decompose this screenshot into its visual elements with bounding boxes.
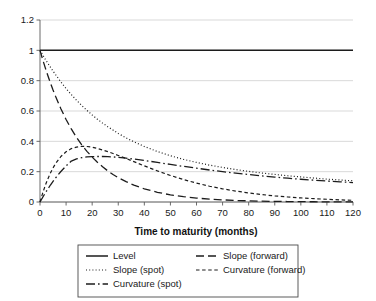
curve-curvature-forward <box>40 146 353 202</box>
x-tick-label: 100 <box>293 207 309 218</box>
data-curves <box>40 50 353 202</box>
legend-label-curvature-spot: Curvature (spot) <box>113 278 182 289</box>
x-tick-label: 40 <box>139 207 150 218</box>
x-tick-label: 30 <box>113 207 124 218</box>
x-tick-label: 90 <box>269 207 280 218</box>
y-axis-tick-labels: 00.20.40.60.811.2 <box>21 14 34 207</box>
x-tick-label: 70 <box>217 207 228 218</box>
x-tick-label: 20 <box>87 207 98 218</box>
y-tick-label: 0.2 <box>21 166 34 177</box>
x-tick-label: 120 <box>345 207 361 218</box>
x-axis-title: Time to maturity (months) <box>134 226 257 237</box>
y-tick-label: 0.4 <box>21 136 34 147</box>
x-tick-label: 50 <box>165 207 176 218</box>
x-tick-label: 60 <box>191 207 202 218</box>
y-tick-label: 0.8 <box>21 75 34 86</box>
x-axis-tick-labels: 0102030405060708090100110120 <box>37 207 361 218</box>
x-tick-label: 10 <box>61 207 72 218</box>
legend-label-curvature-forward: Curvature (forward) <box>223 264 305 275</box>
y-tick-label: 0.6 <box>21 105 34 116</box>
x-tick-label: 80 <box>243 207 254 218</box>
y-tick-label: 1.2 <box>21 14 34 25</box>
x-axis-ticks <box>40 202 353 206</box>
y-axis-ticks <box>37 20 41 202</box>
legend-label-slope-forward: Slope (forward) <box>223 250 288 261</box>
y-tick-label: 1 <box>29 45 34 56</box>
chart-figure: 0102030405060708090100110120 00.20.40.60… <box>0 0 376 301</box>
legend-label-slope-spot: Slope (spot) <box>113 264 164 275</box>
curve-slope-spot <box>40 50 353 180</box>
legend-label-level: Level <box>113 250 136 261</box>
curve-curvature-spot <box>40 157 353 203</box>
chart-legend: LevelSlope (forward)Slope (spot)Curvatur… <box>78 245 305 297</box>
x-tick-label: 0 <box>37 207 42 218</box>
y-tick-label: 0 <box>29 196 34 207</box>
x-tick-label: 110 <box>319 207 334 218</box>
factor-loading-chart: 0102030405060708090100110120 00.20.40.60… <box>0 0 376 301</box>
